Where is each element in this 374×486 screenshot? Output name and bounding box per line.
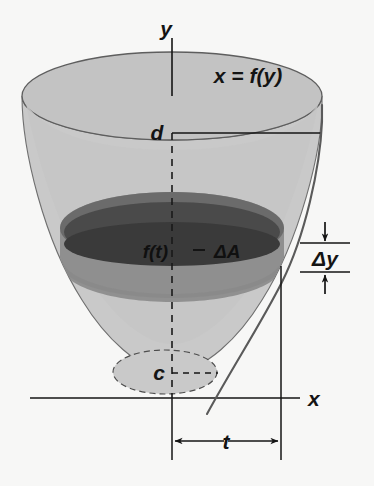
bottom-base-ellipse <box>113 350 217 394</box>
slab-thickness-label: Δy <box>311 247 339 270</box>
cross-section-area-label: ΔA <box>213 241 240 262</box>
representative-slab <box>60 192 284 302</box>
figure-canvas: y x x = f(y) d c f(t) ΔA Δy t <box>0 0 374 486</box>
y-axis-label: y <box>159 17 173 40</box>
sample-point-label: t <box>223 430 231 453</box>
x-axis-label: x <box>307 387 321 410</box>
radius-label: f(t) <box>143 241 168 262</box>
curve-equation-label: x = f(y) <box>213 64 282 87</box>
upper-limit-label: d <box>151 121 165 144</box>
solid-of-revolution-diagram: y x x = f(y) d c f(t) ΔA Δy t <box>0 0 374 486</box>
lower-limit-label: c <box>153 361 165 384</box>
